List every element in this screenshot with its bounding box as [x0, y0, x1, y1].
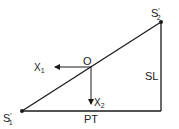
label-sl: SL [145, 70, 158, 82]
label-pt: PT [84, 113, 98, 125]
label-x1: X1 [34, 62, 45, 74]
point-s1-dot [20, 109, 24, 113]
label-o: O [83, 55, 92, 67]
label-s1: S′1 [3, 112, 13, 126]
label-x2: X2 [94, 97, 105, 109]
triangle-diagram: O X1 X2 S′1 S′2 SL PT [0, 0, 179, 129]
label-s2: S′2 [151, 7, 161, 21]
